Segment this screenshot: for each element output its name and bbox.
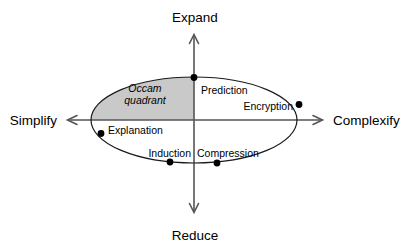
axis-label-simplify: Simplify [10, 113, 58, 128]
occam-quadrant-label-line2: quadrant [124, 94, 167, 106]
point-dot-encryption [296, 101, 303, 108]
point-dot-compression [214, 160, 221, 167]
axis-label-expand: Expand [172, 10, 218, 25]
point-label-prediction: Prediction [201, 84, 248, 96]
point-label-explanation: Explanation [108, 124, 163, 136]
point-dot-prediction [191, 74, 198, 81]
diagram-canvas: Expand Reduce Simplify Complexify Occam … [0, 0, 415, 248]
vertical-axis [190, 35, 199, 213]
occam-quadrant-label-line1: Occam [128, 82, 162, 94]
point-dot-induction [167, 159, 174, 166]
point-dot-explanation [98, 130, 105, 137]
point-label-induction: Induction [148, 147, 191, 159]
point-label-encryption: Encryption [243, 100, 293, 112]
point-label-compression: Compression [197, 147, 259, 159]
axis-label-complexify: Complexify [333, 113, 400, 128]
occam-quadrant-diagram: Expand Reduce Simplify Complexify Occam … [0, 0, 415, 248]
axis-label-reduce: Reduce [172, 228, 219, 243]
